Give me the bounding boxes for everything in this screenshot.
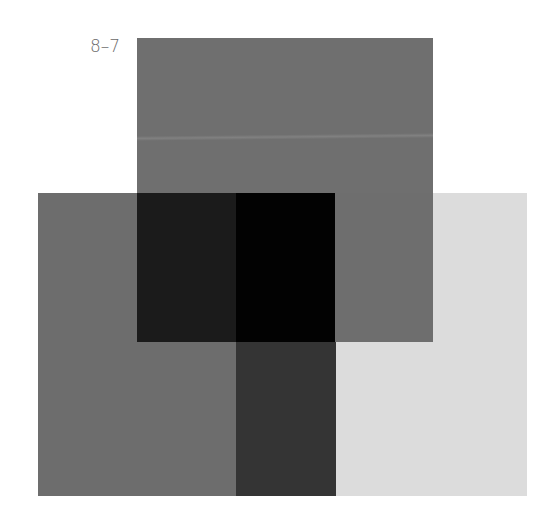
middle-dark-strip xyxy=(236,342,336,496)
left-gray-panel xyxy=(38,193,137,496)
top-gray-panel xyxy=(137,38,433,193)
overlap-top-left xyxy=(137,193,236,342)
figure-canvas: 8–7 xyxy=(0,0,551,520)
light-gray-panel-lower xyxy=(336,342,527,496)
light-gray-panel-right xyxy=(433,193,527,342)
figure-label: 8–7 xyxy=(90,36,120,56)
overlap-top-right xyxy=(335,193,433,342)
overlap-center-black xyxy=(236,193,335,342)
left-gray-panel-lower xyxy=(137,342,236,496)
